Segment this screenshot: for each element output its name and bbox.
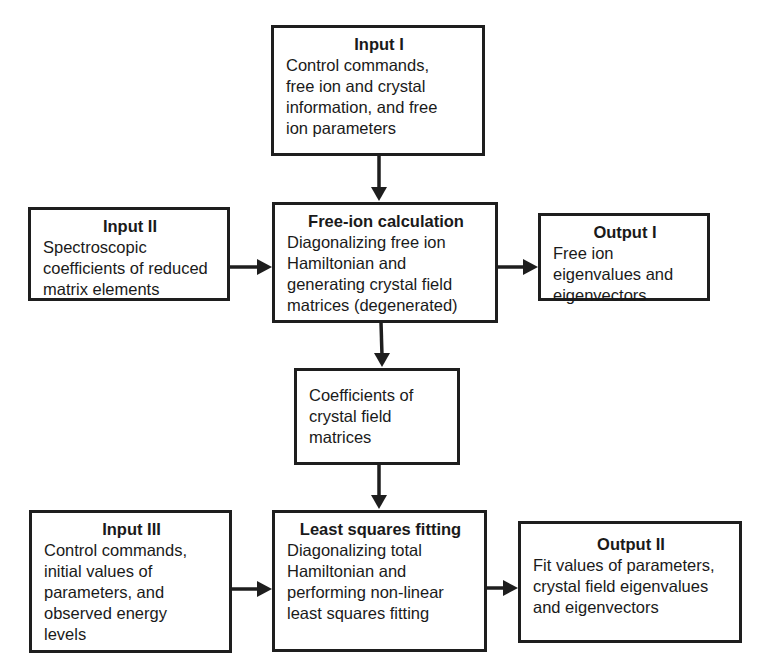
node-free-ion-calculation: Free-ion calculation Diagonalizing free … — [272, 202, 498, 323]
node-description: Coefficients of crystal field matrices — [309, 385, 447, 448]
node-input-1: Input I Control commands, free ion and c… — [271, 25, 485, 156]
arrow-freeion-to-coeffs — [381, 322, 382, 356]
node-output-2: Output II Fit values of parameters, crys… — [518, 521, 742, 643]
node-input-2: Input II Spectroscopic coefficients of r… — [28, 207, 230, 301]
node-output-1: Output I Free ion eigenvalues and eigenv… — [538, 213, 710, 301]
node-title: Input I — [286, 34, 472, 55]
node-description: Free ion eigenvalues and eigenvectors — [553, 243, 697, 306]
node-description: Control commands, free ion and crystal i… — [286, 55, 472, 139]
node-title: Input III — [44, 519, 219, 540]
node-description: Diagonalizing free ion Hamiltonian and g… — [287, 232, 485, 316]
node-title: Output II — [533, 534, 729, 555]
node-title: Free-ion calculation — [287, 211, 485, 232]
node-input-3: Input III Control commands, initial valu… — [29, 510, 232, 653]
node-title: Least squares fitting — [287, 519, 474, 540]
node-crystal-field-coefficients: Coefficients of crystal field matrices — [294, 368, 460, 465]
node-description: Fit values of parameters, crystal field … — [533, 555, 729, 618]
node-least-squares-fitting: Least squares fitting Diagonalizing tota… — [272, 510, 487, 652]
node-description: Control commands, initial values of para… — [44, 540, 219, 645]
node-title: Input II — [43, 216, 217, 237]
node-description: Diagonalizing total Hamiltonian and perf… — [287, 540, 474, 624]
node-description: Spectroscopic coefficients of reduced ma… — [43, 237, 217, 300]
node-title: Output I — [553, 222, 697, 243]
